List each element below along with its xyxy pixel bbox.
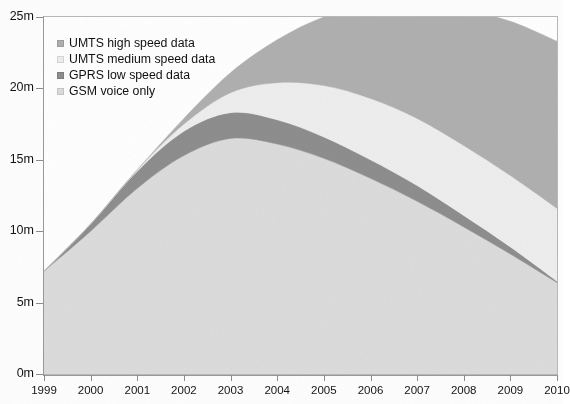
legend-item-umts-medium-speed-data: UMTS medium speed data xyxy=(57,52,215,68)
legend-label: GPRS low speed data xyxy=(69,68,190,84)
legend-swatch-icon xyxy=(57,56,64,63)
y-axis-label-0m: 0m xyxy=(0,366,34,380)
y-axis-line xyxy=(43,16,44,375)
y-axis-label-5m: 5m xyxy=(0,295,34,309)
y-axis-tick-25m xyxy=(36,17,43,18)
y-axis-tick-5m xyxy=(36,303,43,304)
x-axis-tick-1999 xyxy=(44,375,45,381)
legend-item-gsm-voice-only: GSM voice only xyxy=(57,84,215,100)
x-axis-label-2001: 2001 xyxy=(125,384,151,396)
chart-legend: UMTS high speed dataUMTS medium speed da… xyxy=(57,36,215,100)
x-axis-tick-2004 xyxy=(277,375,278,381)
x-axis-tick-2003 xyxy=(231,375,232,381)
y-axis-label-10m: 10m xyxy=(0,223,34,237)
x-axis-tick-2007 xyxy=(417,375,418,381)
x-axis-label-2007: 2007 xyxy=(404,384,430,396)
x-axis-tick-2000 xyxy=(91,375,92,381)
legend-item-umts-high-speed-data: UMTS high speed data xyxy=(57,36,215,52)
y-axis-label-20m: 20m xyxy=(0,80,34,94)
x-axis-label-2008: 2008 xyxy=(451,384,477,396)
x-axis-tick-2006 xyxy=(371,375,372,381)
x-axis-label-1999: 1999 xyxy=(31,384,57,396)
x-axis-label-2000: 2000 xyxy=(78,384,104,396)
legend-item-gprs-low-speed-data: GPRS low speed data xyxy=(57,68,215,84)
x-axis-label-2005: 2005 xyxy=(311,384,337,396)
legend-swatch-icon xyxy=(57,40,64,47)
y-axis-tick-20m xyxy=(36,88,43,89)
x-axis-label-2003: 2003 xyxy=(218,384,244,396)
x-axis-label-2004: 2004 xyxy=(264,384,290,396)
x-axis-tick-2002 xyxy=(184,375,185,381)
x-axis-tick-2010 xyxy=(557,375,558,381)
y-axis-tick-0m xyxy=(36,374,43,375)
legend-swatch-icon xyxy=(57,88,64,95)
legend-label: UMTS high speed data xyxy=(69,36,195,52)
x-axis-label-2002: 2002 xyxy=(171,384,197,396)
legend-swatch-icon xyxy=(57,72,64,79)
x-axis-line xyxy=(43,375,558,376)
legend-label: UMTS medium speed data xyxy=(69,52,215,68)
x-axis-label-2006: 2006 xyxy=(358,384,384,396)
x-axis-label-2010: 2010 xyxy=(544,384,570,396)
x-axis-tick-2009 xyxy=(510,375,511,381)
x-axis-label-2009: 2009 xyxy=(498,384,524,396)
x-axis-tick-2005 xyxy=(324,375,325,381)
y-axis-tick-10m xyxy=(36,231,43,232)
x-axis-tick-2008 xyxy=(464,375,465,381)
y-axis-label-25m: 25m xyxy=(0,9,34,23)
y-axis-label-15m: 15m xyxy=(0,152,34,166)
y-axis-tick-15m xyxy=(36,160,43,161)
legend-label: GSM voice only xyxy=(69,84,155,100)
x-axis-tick-2001 xyxy=(137,375,138,381)
